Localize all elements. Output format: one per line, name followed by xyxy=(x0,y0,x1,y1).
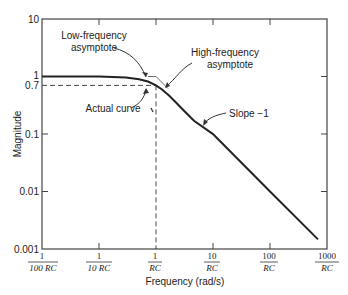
x-tick-4-num: 100 xyxy=(262,251,276,261)
x-tick-5-num: 1000 xyxy=(318,251,337,261)
x-axis-label: Frequency (rad/s) xyxy=(146,276,225,287)
small-mark xyxy=(151,108,153,112)
x-tick-labels: 1 100 RC 1 10 RC 1 RC 10 RC 100 RC 1000 … xyxy=(28,251,339,273)
x-tick-0-den: 100 RC xyxy=(29,263,57,273)
arrow-high-frequency xyxy=(166,63,192,87)
x-tick-2-num: 1 xyxy=(153,251,158,261)
x-tick-0-num: 1 xyxy=(40,251,45,261)
annotation-slope: Slope −1 xyxy=(229,108,269,119)
annotation-high-frequency-1: High-frequency xyxy=(191,47,259,58)
bode-magnitude-chart: 10 1 0.7 0.1 0.01 0.001 Magnitude 1 100 … xyxy=(0,0,348,295)
x-tick-4-den: RC xyxy=(262,263,275,273)
y-tick-0-01: 0.01 xyxy=(20,186,40,197)
annotation-low-frequency-2: asymptote xyxy=(71,42,118,53)
y-axis-label: Magnitude xyxy=(12,110,23,157)
y-tick-0-7: 0.7 xyxy=(25,80,39,91)
annotation-actual-curve: Actual curve xyxy=(85,103,140,114)
y-ticks xyxy=(42,77,327,192)
arrow-low-frequency xyxy=(114,48,146,77)
x-tick-3-den: RC xyxy=(205,263,218,273)
x-tick-1-num: 1 xyxy=(97,251,102,261)
y-tick-10: 10 xyxy=(28,14,40,25)
y-tick-0-1: 0.1 xyxy=(25,129,39,140)
x-tick-3-num: 10 xyxy=(208,251,218,261)
plot-frame xyxy=(42,19,327,249)
actual-curve xyxy=(42,77,318,240)
x-tick-1-den: 10 RC xyxy=(88,263,112,273)
annotation-low-frequency-1: Low-frequency xyxy=(61,30,127,41)
x-tick-5-den: RC xyxy=(320,263,333,273)
annotation-high-frequency-2: asymptote xyxy=(207,59,254,70)
y-tick-0-001: 0.001 xyxy=(14,244,39,255)
x-tick-2-den: RC xyxy=(148,263,161,273)
